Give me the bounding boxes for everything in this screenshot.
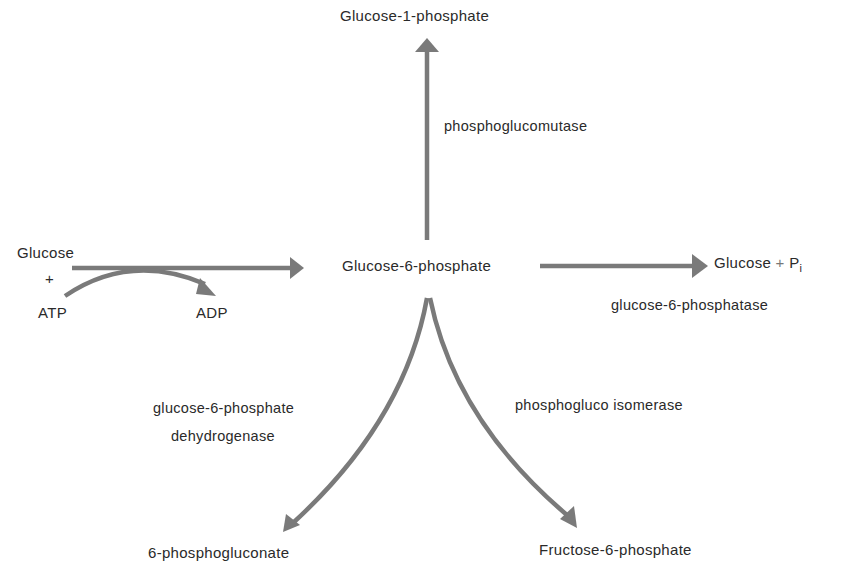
node-glucose-left: Glucose: [17, 244, 74, 261]
arrowhead-right: [692, 254, 708, 278]
plus-sign-right: +: [776, 254, 785, 271]
node-6-phosphogluconate: 6-phosphogluconate: [148, 544, 289, 561]
enzyme-phosphoglucomutase: phosphoglucomutase: [444, 118, 587, 134]
enzyme-g6p-dehydrogenase-line1: glucose-6-phosphate: [153, 400, 294, 416]
arrowhead-up: [415, 38, 439, 52]
enzyme-glucose-6-phosphatase: glucose-6-phosphatase: [611, 297, 768, 313]
node-glucose-6-phosphate: Glucose-6-phosphate: [342, 257, 491, 274]
node-glucose-1-phosphate: Glucose-1-phosphate: [340, 7, 489, 24]
node-atp: ATP: [38, 304, 67, 321]
node-pi: P: [789, 254, 799, 271]
arrow-atp-to-adp: [65, 271, 205, 296]
enzyme-g6p-dehydrogenase-line2: dehydrogenase: [171, 428, 275, 444]
pathway-arrows: [0, 0, 865, 569]
node-adp: ADP: [196, 304, 228, 321]
node-fructose-6-phosphate: Fructose-6-phosphate: [539, 541, 692, 558]
node-glucose-right: Glucose: [714, 254, 771, 271]
pi-subscript: i: [799, 262, 802, 274]
arrowhead-right-left: [290, 257, 304, 279]
node-glucose-pi: Glucose + Pi: [714, 254, 802, 274]
enzyme-phosphogluco-isomerase: phosphogluco isomerase: [515, 397, 683, 413]
plus-sign-left: +: [45, 270, 54, 287]
arrow-to-6pg: [294, 298, 427, 522]
